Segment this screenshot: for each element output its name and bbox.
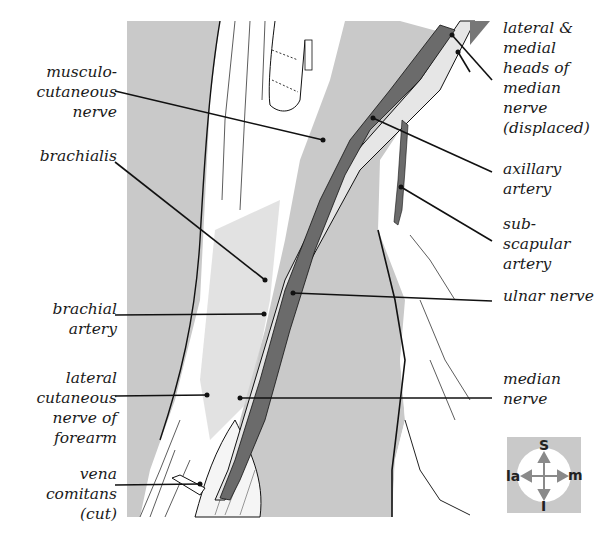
label-axillary-artery: axillary artery	[503, 159, 561, 199]
label-vena-comitans: vena comitans (cut)	[46, 464, 117, 524]
orientation-key: S I la m	[507, 437, 581, 513]
label-median-nerve-heads: lateral & medial heads of median nerve (…	[503, 18, 590, 138]
anatomy-figure: musculo- cutaneous nerve brachialis brac…	[0, 0, 614, 550]
orientation-superior: S	[539, 438, 549, 452]
orientation-inferior: I	[541, 499, 546, 513]
label-ulnar-nerve: ulnar nerve	[503, 286, 594, 306]
label-subscapular-artery: sub- scapular artery	[503, 214, 570, 274]
label-brachialis: brachialis	[40, 146, 117, 166]
label-musculocutaneous-nerve: musculo- cutaneous nerve	[36, 62, 117, 122]
label-brachial-artery: brachial artery	[53, 299, 117, 339]
orientation-medial: m	[568, 468, 583, 482]
orientation-lateral: la	[506, 469, 520, 483]
label-median-nerve: median nerve	[503, 369, 561, 409]
label-lateral-cutaneous-nerve: lateral cutaneous nerve of forearm	[36, 368, 117, 448]
